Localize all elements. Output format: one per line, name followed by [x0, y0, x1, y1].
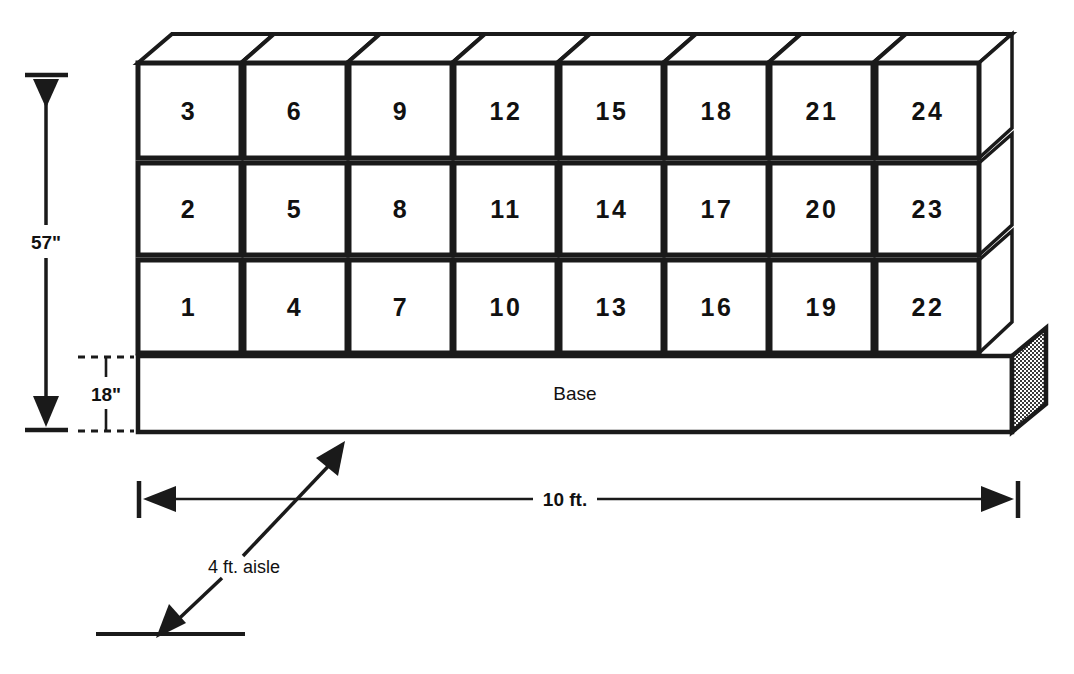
box-number: 24 — [912, 97, 945, 125]
base-height-label-18: 18" — [91, 384, 121, 405]
box-number: 16 — [701, 293, 734, 321]
box-number: 3 — [181, 97, 197, 125]
base-label: Base — [553, 383, 596, 404]
box-number: 18 — [701, 97, 734, 125]
width-label-10ft: 10 ft. — [543, 489, 587, 510]
rack-right-side-faces — [979, 34, 1012, 353]
aisle-dimension-4ft: 4 ft. aisle — [96, 441, 345, 638]
box-number: 12 — [490, 97, 523, 125]
rack-elevation-diagram: Base 3 6 9 12 15 18 21 24 2 5 8 11 14 17… — [0, 0, 1074, 674]
box-number: 5 — [287, 195, 303, 223]
aisle-arrow-shaft-upper — [243, 457, 337, 556]
box-number: 7 — [393, 293, 409, 321]
box-number: 11 — [490, 195, 521, 223]
box-number: 22 — [912, 293, 945, 321]
box-number: 1 — [181, 293, 197, 321]
arrowhead-right — [981, 486, 1014, 512]
arrowhead-left — [143, 486, 176, 512]
rack-top-faces — [138, 34, 1012, 63]
box-number: 13 — [596, 293, 629, 321]
arrowhead-down-top — [33, 79, 59, 108]
box-number: 6 — [287, 97, 303, 125]
rack-row-middle: 2 5 8 11 14 17 20 23 — [138, 163, 979, 255]
box-number: 20 — [806, 195, 839, 223]
box-number: 14 — [596, 195, 629, 223]
box-number: 9 — [393, 97, 409, 125]
base-end-face-halftone — [1012, 328, 1046, 432]
width-dimension-10ft: 10 ft. — [139, 481, 1018, 518]
aisle-label-4ft: 4 ft. aisle — [208, 557, 280, 577]
box-number: 23 — [912, 195, 945, 223]
arrowhead-aisle-upper — [316, 441, 345, 476]
height-dimension-57: 57" — [25, 75, 68, 430]
base-height-dimension-18: 18" — [78, 357, 134, 431]
box-number: 10 — [490, 293, 523, 321]
rack-row-top: 3 6 9 12 15 18 21 24 — [138, 63, 979, 158]
box-number: 4 — [287, 293, 303, 321]
height-label-57: 57" — [31, 232, 61, 253]
box-number: 8 — [393, 195, 409, 223]
rack-row-bottom: 1 4 7 10 13 16 19 22 — [138, 260, 979, 353]
box-number: 19 — [806, 293, 839, 321]
arrowhead-down-bottom — [33, 396, 59, 427]
box-number: 15 — [596, 97, 629, 125]
box-number: 2 — [181, 195, 197, 223]
box-number: 17 — [701, 195, 734, 223]
box-number: 21 — [806, 97, 839, 125]
